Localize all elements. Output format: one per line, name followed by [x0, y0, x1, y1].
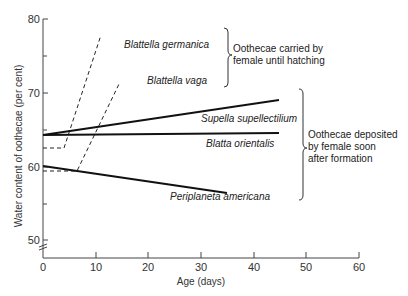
brace-deposited-icon	[299, 89, 307, 200]
note-carried-line2: female until hatching	[233, 55, 325, 66]
x-axis-title: Age (days)	[177, 276, 225, 287]
y-axis-title: Water content of oothecae (per cent)	[13, 65, 24, 228]
label-blattella-vaga: Blattella vaga	[147, 75, 207, 86]
y-axis	[43, 19, 48, 258]
svg-text:40: 40	[248, 261, 260, 273]
brace-carried-icon	[224, 28, 232, 87]
water-content-chart: 80 70 60 50 0 10 20 30 40 50 60 Age (day…	[0, 0, 408, 296]
series-blatta-orientalis	[43, 133, 279, 135]
svg-text:60: 60	[28, 161, 40, 173]
label-blattella-germanica: Blattella germanica	[124, 39, 209, 50]
series-periplaneta-americana	[43, 166, 227, 193]
svg-text:0: 0	[40, 261, 46, 273]
svg-text:60: 60	[353, 261, 365, 273]
note-carried-line1: Oothecae carried by	[233, 43, 323, 54]
svg-text:70: 70	[28, 87, 40, 99]
y-tick-labels: 80 70 60 50	[28, 13, 40, 246]
note-deposited-line2: by female soon	[308, 141, 376, 152]
svg-text:50: 50	[300, 261, 312, 273]
svg-text:30: 30	[195, 261, 207, 273]
svg-text:20: 20	[142, 261, 154, 273]
svg-text:10: 10	[90, 261, 102, 273]
svg-text:80: 80	[28, 13, 40, 25]
label-periplaneta-americana: Periplaneta americana	[170, 191, 270, 202]
label-supella-supellectilium: Supella supellectilium	[201, 113, 297, 124]
x-tick-labels: 0 10 20 30 40 50 60	[40, 261, 365, 273]
series-blattella-vaga	[43, 82, 120, 171]
note-deposited-line3: after formation	[308, 153, 372, 164]
svg-text:50: 50	[28, 234, 40, 246]
label-blatta-orientalis: Blatta orientalis	[206, 138, 274, 149]
note-deposited-line1: Oothecae deposited	[308, 129, 398, 140]
x-axis	[43, 252, 359, 258]
